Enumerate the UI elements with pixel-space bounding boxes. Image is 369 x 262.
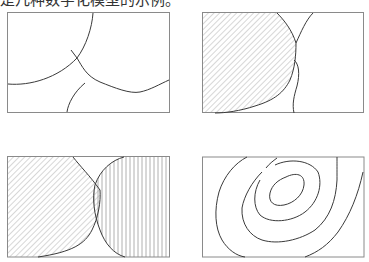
- boundary-line: [296, 13, 313, 43]
- digitization-models-figure: [0, 0, 369, 262]
- contour-line: [266, 158, 277, 168]
- panel-3: [8, 157, 170, 258]
- contour-line: [305, 172, 363, 257]
- boundary-line: [67, 83, 85, 112]
- contour-line: [255, 161, 320, 221]
- panel-2: [203, 13, 364, 114]
- panel-1-frame: [8, 13, 170, 113]
- vertical-hatched-region: [94, 157, 169, 257]
- contour-line-inner: [270, 174, 304, 205]
- panel-1: [8, 13, 170, 113]
- boundary-line: [71, 50, 169, 92]
- panel-4: [203, 157, 365, 257]
- hatched-region: [203, 13, 297, 113]
- contour-line: [242, 157, 337, 242]
- boundary-line: [8, 13, 93, 84]
